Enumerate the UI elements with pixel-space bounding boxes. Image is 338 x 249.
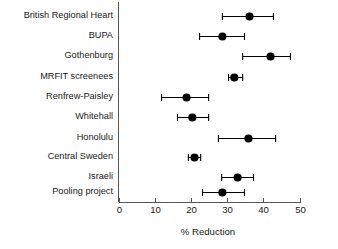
forest-row: [200, 32, 245, 40]
forest-row: [162, 93, 209, 101]
point-estimate-marker: [230, 73, 238, 81]
x-tick-label: 40: [258, 204, 269, 215]
x-tick-label: 50: [295, 204, 306, 215]
x-tick-label: 10: [150, 204, 161, 215]
forest-plot-figure: British Regional HeartBUPAGothenburgMRFI…: [0, 0, 338, 249]
point-estimate-marker: [218, 188, 226, 196]
study-label: BUPA: [89, 30, 114, 40]
data-series-group: [162, 12, 291, 196]
forest-row: [202, 188, 244, 196]
point-estimate-marker: [233, 173, 241, 181]
x-tick-labels-group: 01020304050: [117, 204, 306, 215]
study-label: Honolulu: [77, 132, 113, 142]
point-estimate-marker: [190, 153, 198, 161]
forest-row: [222, 12, 273, 20]
point-estimate-marker: [244, 134, 252, 142]
forest-row: [243, 52, 291, 60]
study-label: Gothenburg: [64, 50, 113, 60]
study-label: Renfrew-Paisley: [46, 91, 113, 101]
study-label: Pooling project: [52, 186, 113, 196]
forest-row: [218, 134, 275, 142]
forest-plot-canvas: British Regional HeartBUPAGothenburgMRFI…: [0, 0, 338, 249]
x-tick-label: 20: [186, 204, 197, 215]
point-estimate-marker: [182, 93, 190, 101]
axes-group: [119, 2, 300, 203]
point-estimate-marker: [188, 113, 196, 121]
study-label: Central Sweden: [48, 151, 113, 161]
point-estimate-marker: [245, 12, 253, 20]
x-tick-marks-group: [120, 198, 301, 203]
x-tick-label: 0: [117, 204, 122, 215]
x-axis-title: % Reduction: [181, 226, 235, 237]
forest-row: [229, 73, 243, 81]
study-label: MRFIT screenees: [40, 71, 113, 81]
forest-row: [178, 113, 209, 121]
point-estimate-marker: [266, 52, 274, 60]
point-estimate-marker: [218, 32, 226, 40]
study-label: Israeli: [88, 171, 113, 181]
forest-row: [222, 173, 254, 181]
study-label: Whitehall: [75, 111, 113, 121]
forest-row: [188, 153, 200, 161]
study-labels-group: British Regional HeartBUPAGothenburgMRFI…: [24, 10, 114, 196]
x-tick-label: 30: [222, 204, 233, 215]
study-label: British Regional Heart: [24, 10, 114, 20]
